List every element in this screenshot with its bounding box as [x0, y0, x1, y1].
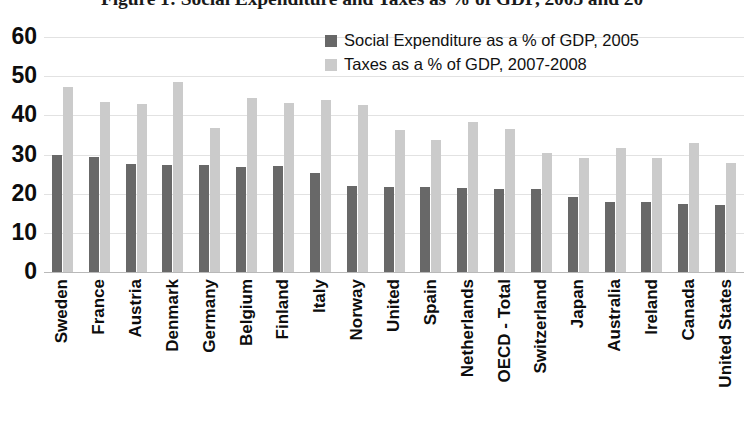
x-axis-label-cell: Italy: [302, 277, 339, 430]
x-axis-label-cell: Australia: [597, 277, 634, 430]
bar-group: [670, 37, 707, 272]
bar[interactable]: [641, 202, 651, 272]
x-axis-category-label: Switzerland: [533, 279, 550, 373]
bar[interactable]: [137, 104, 147, 272]
x-axis-category-label: Austria: [127, 279, 144, 338]
bar[interactable]: [284, 103, 294, 272]
bar[interactable]: [468, 122, 478, 272]
x-axis-category-label: Belgium: [238, 279, 255, 346]
bar[interactable]: [100, 102, 110, 272]
bar-group: [44, 37, 81, 272]
bar[interactable]: [395, 130, 405, 272]
x-axis-label-cell: OECD - Total: [486, 277, 523, 430]
x-axis-category-label: OECD - Total: [496, 279, 513, 383]
bar[interactable]: [505, 129, 515, 272]
bar[interactable]: [420, 187, 430, 272]
y-axis-tick-label: 60: [11, 25, 37, 48]
bar[interactable]: [568, 197, 578, 272]
bar[interactable]: [89, 157, 99, 272]
bar-group: [81, 37, 118, 272]
y-axis-tick-label: 30: [11, 143, 37, 166]
bar[interactable]: [162, 165, 172, 272]
x-axis-category-label: Japan: [569, 279, 586, 328]
x-axis-label-cell: United States: [707, 277, 744, 430]
square-swatch-light: [325, 59, 337, 71]
x-axis-category-label: Germany: [201, 279, 218, 353]
bar[interactable]: [689, 143, 699, 272]
bar[interactable]: [52, 155, 62, 272]
bar[interactable]: [616, 148, 626, 272]
bar[interactable]: [431, 140, 441, 272]
bar[interactable]: [321, 100, 331, 272]
bar[interactable]: [358, 105, 368, 272]
legend-item-label: Taxes as a % of GDP, 2007-2008: [344, 56, 587, 73]
bar[interactable]: [542, 153, 552, 272]
x-axis-label-cell: Canada: [670, 277, 707, 430]
x-axis-label-cell: Norway: [339, 277, 376, 430]
gridline: [44, 272, 744, 273]
bar[interactable]: [715, 205, 725, 272]
bar[interactable]: [579, 158, 589, 272]
x-axis-label-cell: Finland: [265, 277, 302, 430]
bar-group: [118, 37, 155, 272]
bar[interactable]: [126, 164, 136, 272]
x-axis-label-cell: Austria: [118, 277, 155, 430]
bar[interactable]: [247, 98, 257, 272]
bar[interactable]: [384, 187, 394, 272]
bar[interactable]: [63, 87, 73, 272]
y-axis-tick-label: 40: [11, 103, 37, 126]
bar-group: [228, 37, 265, 272]
bar[interactable]: [457, 188, 467, 272]
chart-legend: Social Expenditure as a % of GDP, 2005Ta…: [325, 30, 639, 75]
x-axis-label-cell: Ireland: [634, 277, 671, 430]
x-axis-label-cell: United: [376, 277, 413, 430]
x-axis-category-label: United: [385, 279, 402, 332]
bar[interactable]: [605, 202, 615, 273]
x-axis-label-cell: Switzerland: [523, 277, 560, 430]
x-axis-category-label: Norway: [348, 279, 365, 340]
legend-item[interactable]: Taxes as a % of GDP, 2007-2008: [325, 54, 639, 75]
y-axis-tick-label: 50: [11, 64, 37, 87]
legend-item-label: Social Expenditure as a % of GDP, 2005: [344, 32, 639, 49]
x-axis-category-label: Spain: [422, 279, 439, 325]
bar[interactable]: [173, 82, 183, 272]
bar[interactable]: [199, 165, 209, 272]
bar[interactable]: [210, 128, 220, 272]
x-axis-category-label: Canada: [680, 279, 697, 340]
x-axis-label-cell: Spain: [412, 277, 449, 430]
y-axis-tick-label: 0: [24, 260, 37, 283]
square-swatch-dark: [325, 35, 337, 47]
bar[interactable]: [678, 204, 688, 272]
bar[interactable]: [273, 166, 283, 272]
y-axis-tick-label: 10: [11, 221, 37, 244]
x-axis-label-cell: Netherlands: [449, 277, 486, 430]
x-axis-category-label: Netherlands: [459, 279, 476, 377]
x-axis-category-label: Australia: [606, 279, 623, 352]
x-axis-category-label: Italy: [311, 279, 328, 313]
x-axis-category-label: France: [90, 279, 107, 335]
figure-container: Figure 1: Social Expenditure and Taxes a…: [0, 0, 744, 430]
x-axis-category-label: Ireland: [643, 279, 660, 335]
bar[interactable]: [652, 158, 662, 272]
x-axis-label-cell: Belgium: [228, 277, 265, 430]
x-axis-category-labels: SwedenFranceAustriaDenmarkGermanyBelgium…: [44, 277, 744, 430]
bar[interactable]: [726, 163, 736, 272]
x-axis-category-label: Sweden: [54, 279, 71, 343]
figure-title: Figure 1: Social Expenditure and Taxes a…: [0, 0, 744, 10]
bar[interactable]: [236, 167, 246, 272]
x-axis-label-cell: Germany: [191, 277, 228, 430]
legend-item[interactable]: Social Expenditure as a % of GDP, 2005: [325, 30, 639, 51]
bar[interactable]: [347, 186, 357, 272]
x-axis-category-label: United States: [717, 279, 734, 388]
x-axis-label-cell: Denmark: [155, 277, 192, 430]
y-axis-tick-label: 20: [11, 182, 37, 205]
bar-group: [191, 37, 228, 272]
x-axis-category-label: Denmark: [164, 279, 181, 352]
x-axis-category-label: Finland: [275, 279, 292, 339]
bar[interactable]: [494, 189, 504, 272]
bar[interactable]: [310, 173, 320, 272]
bar-group: [707, 37, 744, 272]
bar[interactable]: [531, 189, 541, 272]
y-axis-tick-labels: 6050403020100: [0, 0, 40, 430]
bar-group: [155, 37, 192, 272]
